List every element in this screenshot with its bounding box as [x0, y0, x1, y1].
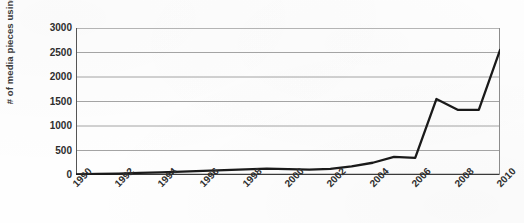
x-tick-label: 1998: [241, 166, 264, 189]
x-axis-tick-labels: 1990199219941996199820002002200420062008…: [0, 0, 524, 223]
x-tick-label: 1990: [71, 166, 94, 189]
x-tick-label: 2002: [325, 166, 348, 189]
x-tick-label: 2010: [495, 166, 518, 189]
line-chart: # of media pieces using the term 0500100…: [0, 0, 524, 223]
x-tick-label: 2004: [368, 166, 391, 189]
x-tick-label: 2000: [283, 166, 306, 189]
x-tick-label: 1994: [156, 166, 179, 189]
x-tick-label: 1996: [198, 166, 221, 189]
x-tick-label: 1992: [113, 166, 136, 189]
x-tick-label: 2006: [410, 166, 433, 189]
x-tick-label: 2008: [453, 166, 476, 189]
